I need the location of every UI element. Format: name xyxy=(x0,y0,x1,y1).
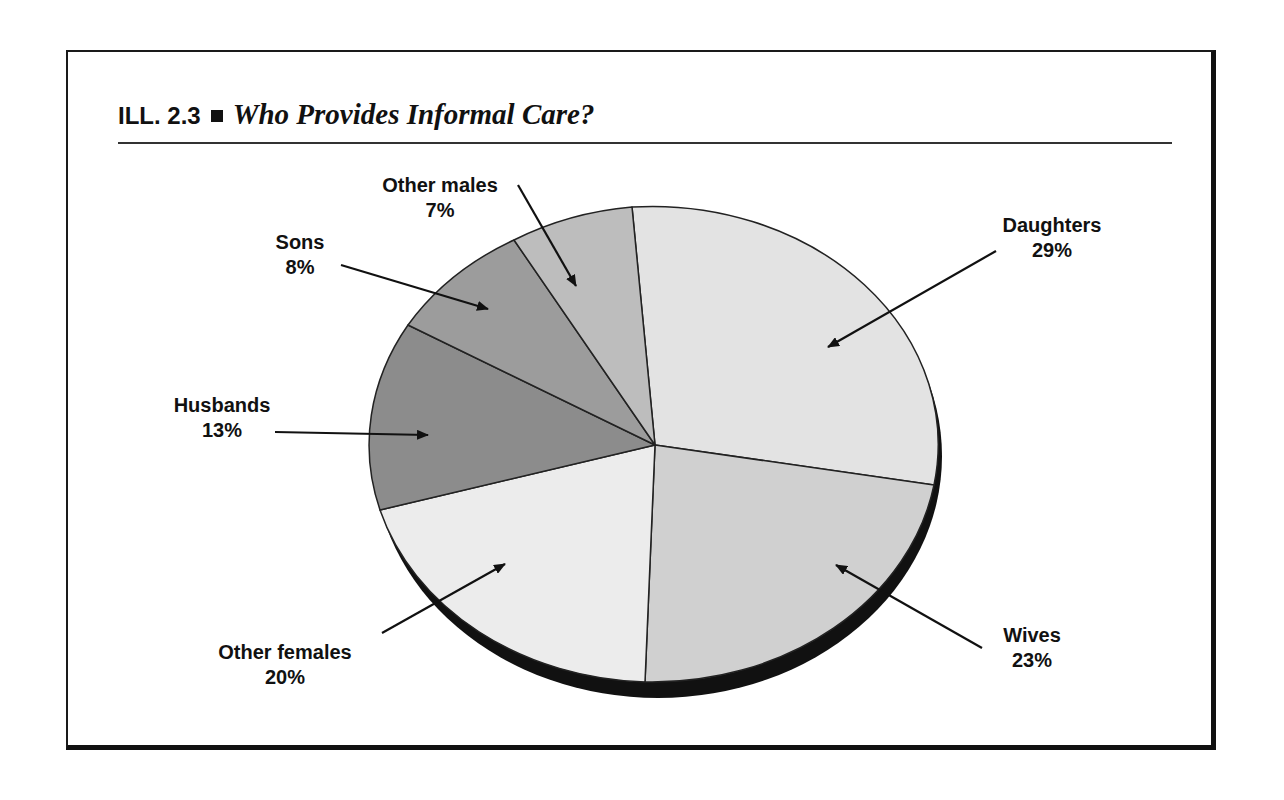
label-pct: 7% xyxy=(382,198,498,223)
label-other-females: Other females 20% xyxy=(218,640,351,690)
label-husbands: Husbands 13% xyxy=(174,393,271,443)
label-name: Other females xyxy=(218,640,351,665)
label-name: Wives xyxy=(1003,623,1061,648)
label-name: Sons xyxy=(276,230,325,255)
label-name: Husbands xyxy=(174,393,271,418)
label-other-males: Other males 7% xyxy=(382,173,498,223)
label-pct: 8% xyxy=(276,255,325,280)
label-name: Daughters xyxy=(1003,213,1102,238)
label-pct: 29% xyxy=(1003,238,1102,263)
label-name: Other males xyxy=(382,173,498,198)
label-pct: 23% xyxy=(1003,648,1061,673)
label-pct: 20% xyxy=(218,665,351,690)
label-pct: 13% xyxy=(174,418,271,443)
label-daughters: Daughters 29% xyxy=(1003,213,1102,263)
slice-daughters xyxy=(632,206,938,485)
label-wives: Wives 23% xyxy=(1003,623,1061,673)
label-sons: Sons 8% xyxy=(276,230,325,280)
slice-wives xyxy=(645,445,934,682)
